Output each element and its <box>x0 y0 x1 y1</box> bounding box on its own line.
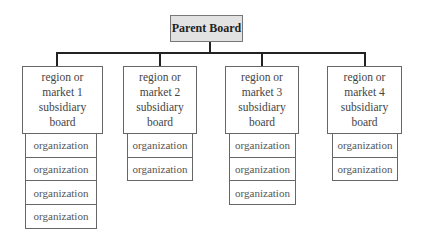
organization-list-2: organization organization <box>127 134 193 181</box>
organization-node: organization <box>127 158 193 182</box>
organization-node: organization <box>25 181 97 205</box>
subsidiary-board-label: region or market 2 subsidiary board <box>128 70 192 130</box>
organization-list-4: organization organization <box>332 134 398 181</box>
subsidiary-board-node-3: region or market 3 subsidiary board <box>225 66 299 134</box>
subsidiary-board-node-1: region or market 1 subsidiary board <box>22 66 103 134</box>
parent-board-node: Parent Board <box>170 15 243 42</box>
parent-board-label: Parent Board <box>172 21 241 36</box>
sub3-connector <box>261 52 263 66</box>
organization-list-1: organization organization organization o… <box>25 134 97 229</box>
organization-node: organization <box>25 205 97 229</box>
subsidiary-board-node-4: region or market 4 subsidiary board <box>327 66 402 134</box>
sub4-connector <box>364 52 366 66</box>
organization-node: organization <box>25 134 97 158</box>
horizontal-connector <box>56 52 366 54</box>
sub1-connector <box>56 52 58 66</box>
organization-node: organization <box>229 158 296 182</box>
subsidiary-board-label: region or market 4 subsidiary board <box>332 70 397 130</box>
organization-node: organization <box>127 134 193 158</box>
organization-node: organization <box>229 134 296 158</box>
subsidiary-board-label: region or market 1 subsidiary board <box>27 70 98 130</box>
organization-list-3: organization organization organization <box>229 134 296 205</box>
subsidiary-board-node-2: region or market 2 subsidiary board <box>123 66 197 134</box>
organization-node: organization <box>332 158 398 182</box>
organization-node: organization <box>229 181 296 205</box>
organization-node: organization <box>25 158 97 182</box>
sub2-connector <box>159 52 161 66</box>
organization-node: organization <box>332 134 398 158</box>
subsidiary-board-label: region or market 3 subsidiary board <box>230 70 294 130</box>
